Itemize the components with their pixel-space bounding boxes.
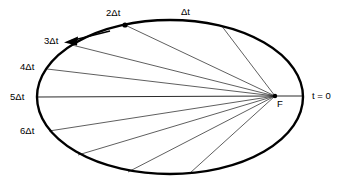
- radius-vector-dt7: [78, 96, 275, 155]
- orbital-position-marker-dot: [122, 22, 127, 27]
- radius-vector-dt4: [47, 69, 275, 96]
- orbit-diagram-figure: Δt 2Δt 3Δt 4Δt 5Δt 6Δt F t = 0: [0, 0, 344, 187]
- label-6-delta-t: 6Δt: [20, 125, 35, 136]
- motion-arrow-head: [64, 37, 78, 46]
- label-3-delta-t: 3Δt: [44, 35, 59, 46]
- radius-vector-dt5: [38, 96, 275, 97]
- label-focus-f: F: [277, 98, 283, 109]
- label-delta-t: Δt: [181, 6, 190, 17]
- orbit-diagram-svg: Δt 2Δt 3Δt 4Δt 5Δt 6Δt F t = 0: [0, 0, 344, 187]
- label-5-delta-t: 5Δt: [10, 91, 25, 102]
- label-t-equals-zero: t = 0: [312, 90, 331, 101]
- label-2-delta-t: 2Δt: [106, 7, 121, 18]
- radius-vector-dt3: [72, 45, 275, 96]
- direction-of-motion-arrow: [64, 31, 110, 46]
- radius-vector-dt9: [190, 96, 275, 173]
- label-4-delta-t: 4Δt: [20, 61, 35, 72]
